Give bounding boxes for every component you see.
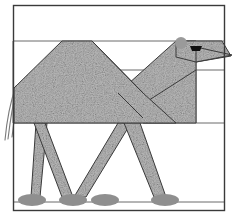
foot-4 xyxy=(151,194,179,206)
foot-1 xyxy=(18,194,46,206)
camel-eye-polygon xyxy=(190,46,202,51)
camel-figure-svg xyxy=(0,0,233,217)
figure-canvas: Tangram Camel Figure Geometric camel ass… xyxy=(0,0,233,217)
foot-3 xyxy=(91,194,119,206)
camel-ear-circle xyxy=(175,37,187,49)
foot-2 xyxy=(59,194,87,206)
